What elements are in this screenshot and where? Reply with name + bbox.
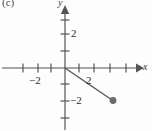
x-axis-group <box>2 64 144 73</box>
plot-canvas <box>0 0 152 131</box>
y-axis-name-label: y <box>58 0 62 8</box>
x-axis-tick-label-positive: 2 <box>86 75 92 86</box>
coordinate-plane-figure: (c) <box>0 0 152 131</box>
y-axis-tick-label-positive: 2 <box>71 28 77 39</box>
y-axis-tick-label-negative: −2 <box>70 95 82 106</box>
x-axis-name-label: x <box>143 62 147 72</box>
x-axis-tick-label-negative: −2 <box>29 75 41 86</box>
endpoint-dot <box>110 97 117 104</box>
